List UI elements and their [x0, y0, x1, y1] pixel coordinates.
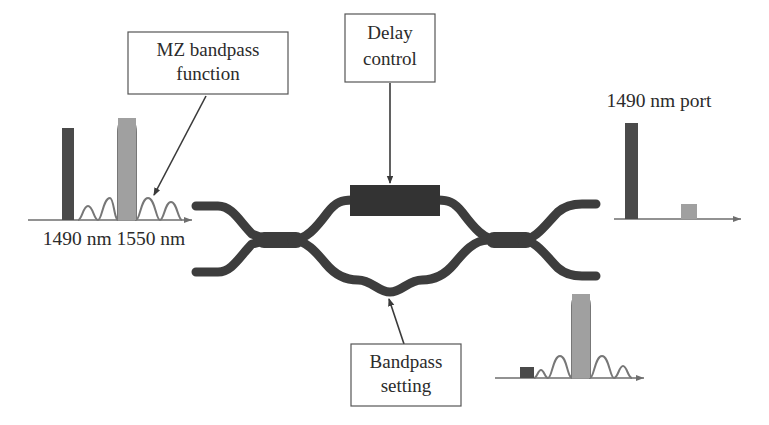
1550-nm-input-line	[118, 118, 136, 220]
bandpass-setting-callout[interactable]: Bandpass setting	[351, 299, 461, 406]
delay-control-callout-line2: control	[363, 48, 417, 69]
lower-input-waveguide	[196, 240, 268, 272]
input-spectrum-group: 1490 nm 1550 nm	[28, 118, 192, 249]
port-1490-spectrum-label: 1490 nm port	[606, 90, 712, 111]
delay-control-callout-line1: Delay	[367, 22, 413, 43]
bandpass-setting-callout-line1: Bandpass	[370, 351, 443, 372]
1490-nm-output-line	[625, 123, 638, 219]
port-1550-spectrum-group	[495, 294, 644, 378]
mz-bandpass-function-callout[interactable]: MZ bandpass function	[128, 32, 288, 195]
mz-bandpass-callout-line1: MZ bandpass	[157, 39, 260, 60]
1550-nm-residual-line	[681, 204, 697, 219]
mz-bandpass-callout-line2: function	[176, 63, 240, 84]
1550-nm-output-line	[572, 294, 590, 378]
1490-nm-input-line	[62, 128, 74, 220]
mach-zehnder-interferometer	[196, 185, 596, 292]
upper-input-waveguide	[196, 206, 268, 240]
upper-arm-left-bend	[292, 200, 352, 240]
bandpass-setting-leader-arrow	[389, 299, 404, 344]
input-spectrum-label: 1490 nm 1550 nm	[43, 228, 185, 249]
bandpass-setting-callout-line2: setting	[381, 375, 432, 396]
delay-block[interactable]	[350, 185, 440, 216]
lower-arm-meander	[292, 240, 498, 292]
upper-output-waveguide	[522, 204, 596, 240]
port-1490-spectrum-group: 1490 nm port	[606, 90, 741, 219]
mz-filter-diagram: 1490 nm 1550 nm MZ bandpass function Del…	[0, 0, 769, 425]
mz-bandpass-leader-arrow	[154, 96, 206, 195]
1490-nm-residual-line	[520, 367, 534, 378]
delay-control-callout[interactable]: Delay control	[345, 14, 435, 183]
diagram-canvas: 1490 nm 1550 nm MZ bandpass function Del…	[0, 0, 769, 425]
lower-output-waveguide	[522, 240, 596, 276]
